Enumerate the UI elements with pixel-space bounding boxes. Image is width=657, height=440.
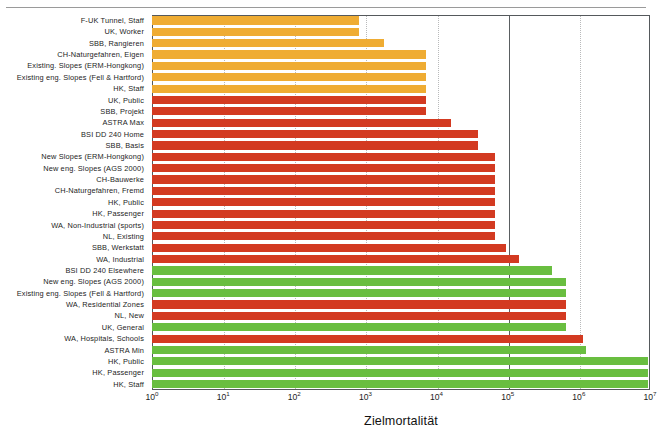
bar (152, 164, 495, 172)
bar (152, 300, 566, 308)
bar-row (152, 106, 650, 117)
bar-row (152, 163, 650, 174)
bar-row (152, 151, 650, 162)
bar (152, 62, 426, 70)
bar (152, 312, 566, 320)
bar-row (152, 310, 650, 321)
y-axis-label: F-UK Tunnel, Staff (81, 15, 144, 26)
bar (152, 255, 519, 263)
bar-row (152, 197, 650, 208)
y-axis-label: HK, Public (108, 197, 144, 208)
page-top-rule (6, 7, 646, 8)
bar-row (152, 333, 650, 344)
bar (152, 198, 495, 206)
x-tick-6: 106 (572, 392, 585, 402)
y-axis-label: SBB, Basis (106, 140, 144, 151)
bar-row (152, 276, 650, 287)
bar (152, 141, 478, 149)
y-axis-label: CH-Bauwerke (96, 174, 144, 185)
y-axis-label: Existing eng. Slopes (Fell & Hartford) (17, 72, 144, 83)
y-axis-label: CH-Naturgefahren, Eigen (57, 49, 144, 60)
bar (152, 73, 426, 81)
bar (152, 50, 426, 58)
bar (152, 96, 426, 104)
bar (152, 16, 359, 24)
y-axis-label: New eng. Slopes (AGS 2000) (43, 276, 144, 287)
bar-row (152, 185, 650, 196)
bar-row (152, 254, 650, 265)
bar-row (152, 49, 650, 60)
y-axis-label: NL, New (115, 310, 144, 321)
bar-row (152, 26, 650, 37)
bar (152, 119, 451, 127)
bar (152, 266, 552, 274)
bar-row (152, 379, 650, 390)
x-tick-4: 104 (430, 392, 443, 402)
bar-row (152, 367, 650, 378)
x-tick-5: 105 (501, 392, 514, 402)
bar-row (152, 208, 650, 219)
y-axis-label: BSI DD 240 Elsewhere (65, 265, 144, 276)
bar-row (152, 174, 650, 185)
y-axis-label: HK, Passenger (92, 367, 144, 378)
bar-row (152, 242, 650, 253)
bar-row (152, 38, 650, 49)
bar-series (152, 15, 650, 390)
y-axis-label: ASTRA Max (102, 117, 144, 128)
x-tick-2: 102 (288, 392, 301, 402)
y-axis-label: WA, Residential Zones (66, 299, 144, 310)
bar (152, 278, 566, 286)
y-axis-label: New Slopes (ERM-Hongkong) (41, 151, 144, 162)
bar (152, 130, 478, 138)
x-tick-0: 100 (145, 392, 158, 402)
bar-row (152, 345, 650, 356)
y-axis-label: CH-Naturgefahren, Fremd (55, 185, 144, 196)
bar (152, 39, 384, 47)
bar-row (152, 140, 650, 151)
y-axis-label: NL, Existing (103, 231, 144, 242)
bar-row (152, 60, 650, 71)
bar (152, 210, 495, 218)
bar (152, 28, 359, 36)
bar-row (152, 265, 650, 276)
y-axis-label: HK, Public (108, 356, 144, 367)
bar-row (152, 288, 650, 299)
y-axis-label: ASTRA Min (104, 345, 144, 356)
bar (152, 153, 495, 161)
y-axis-label: HK, Passenger (92, 208, 144, 219)
x-tick-1: 101 (217, 392, 230, 402)
y-axis-category-labels: F-UK Tunnel, StaffUK, WorkerSBB, Rangier… (0, 15, 148, 390)
bar-row (152, 231, 650, 242)
y-axis-label: BSI DD 240 Home (81, 129, 144, 140)
bar-row (152, 72, 650, 83)
bar (152, 369, 648, 377)
bar-row (152, 220, 650, 231)
y-axis-label: SBB, Werkstatt (92, 242, 144, 253)
y-axis-label: New eng. Slopes (AGS 2000) (43, 163, 144, 174)
y-axis-label: SBB, Projekt (100, 106, 144, 117)
bar (152, 187, 495, 195)
y-axis-label: WA, Non-Industrial (sports) (51, 220, 144, 231)
bar-row (152, 356, 650, 367)
bar (152, 323, 566, 331)
bar (152, 357, 648, 365)
bar-row (152, 299, 650, 310)
bar (152, 335, 583, 343)
x-axis-tick-labels: 100101102103104105106107 (152, 392, 650, 408)
y-axis-label: HK, Staff (113, 83, 144, 94)
bar (152, 346, 586, 354)
y-axis-label: SBB, Rangieren (89, 38, 144, 49)
bar-row (152, 15, 650, 26)
y-axis-label: WA, Hospitals, Schools (64, 333, 144, 344)
bar-row (152, 83, 650, 94)
bar (152, 175, 495, 183)
bar (152, 221, 495, 229)
y-axis-label: UK, Public (108, 95, 144, 106)
bar (152, 289, 566, 297)
bar (152, 380, 648, 388)
x-tick-3: 103 (359, 392, 372, 402)
bar-row (152, 117, 650, 128)
y-axis-label: WA, Industrial (96, 254, 144, 265)
y-axis-label: Existing eng. Slopes (Fell & Hartford) (17, 288, 144, 299)
